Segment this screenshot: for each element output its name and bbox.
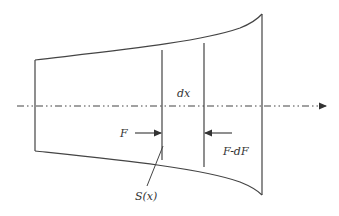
force-F-label: F: [119, 127, 128, 140]
tapered-body-outline: [35, 14, 262, 195]
top-curve: [35, 14, 262, 60]
force-F-minus-dF-label: F-dF: [222, 145, 249, 158]
dx-label: dx: [177, 87, 191, 100]
bar-element-diagram: dx F F-dF S(x): [0, 0, 339, 216]
section-area-label: S(x): [135, 190, 157, 203]
